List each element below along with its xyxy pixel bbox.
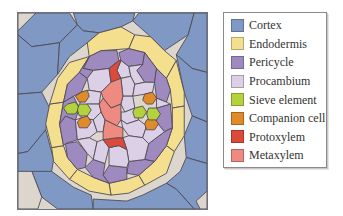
legend-label: Protoxylem <box>249 131 305 143</box>
legend-item-procambium: Procambium <box>231 72 326 91</box>
cross-section-svg <box>18 13 207 209</box>
procambium-swatch <box>231 75 244 88</box>
legend-item-cortex: Cortex <box>231 16 326 35</box>
legend-label: Companion cell <box>249 112 325 124</box>
root-cross-section-diagram <box>17 12 208 210</box>
endodermis-swatch <box>231 37 244 50</box>
legend-item-companion-cell: Companion cell <box>231 109 326 128</box>
legend-item-sieve-element: Sieve element <box>231 90 326 109</box>
legend-label: Metaxylem <box>249 149 304 161</box>
metaxylem-swatch <box>231 149 244 162</box>
legend-item-metaxylem: Metaxylem <box>231 146 326 165</box>
legend-label: Procambium <box>249 75 310 87</box>
pericycle-swatch <box>231 56 244 69</box>
legend-label: Endodermis <box>249 38 307 50</box>
protoxylem-swatch <box>231 130 244 143</box>
legend-label: Sieve element <box>249 94 317 106</box>
legend-label: Cortex <box>249 19 282 31</box>
legend-item-protoxylem: Protoxylem <box>231 128 326 147</box>
legend-item-endodermis: Endodermis <box>231 35 326 54</box>
legend: Cortex Endodermis Pericycle Procambium S… <box>223 12 327 168</box>
legend-label: Pericycle <box>249 56 294 68</box>
cortex-swatch <box>231 19 244 32</box>
sieve-element-swatch <box>231 93 244 106</box>
legend-item-pericycle: Pericycle <box>231 53 326 72</box>
companion-cell-swatch <box>231 112 244 125</box>
